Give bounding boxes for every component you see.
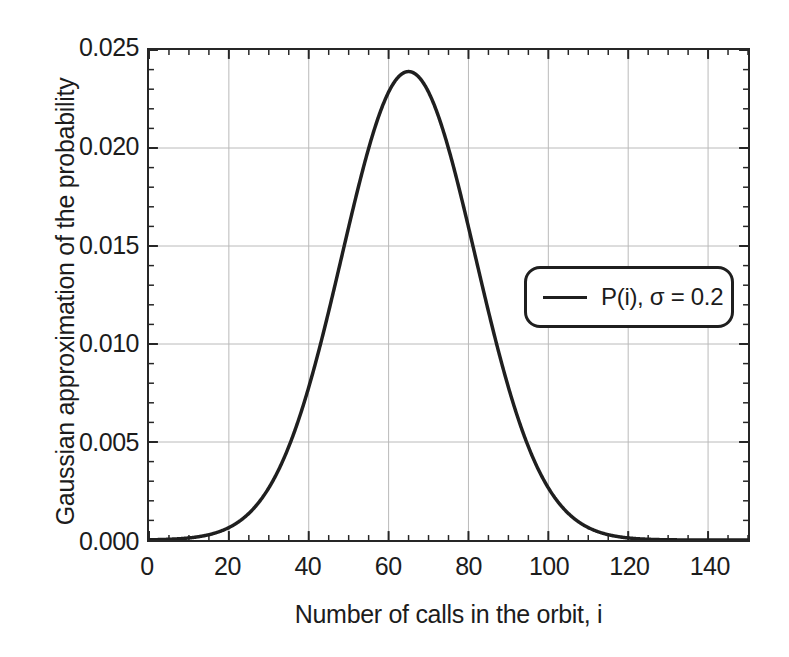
legend-entry-label: P(i), σ = 0.2 [601, 283, 723, 311]
x-tick-label: 60 [375, 554, 402, 579]
x-tick-label: 100 [529, 554, 569, 579]
legend-box: P(i), σ = 0.2 [524, 266, 734, 328]
x-axis-title: Number of calls in the orbit, i [147, 600, 750, 629]
x-tick-label: 80 [455, 554, 482, 579]
x-tick-label: 0 [140, 554, 153, 579]
x-tick-label: 20 [214, 554, 241, 579]
y-axis-title: Gaussian approximation of the probabilit… [51, 22, 80, 582]
x-tick-label: 120 [609, 554, 649, 579]
x-tick-label: 140 [690, 554, 730, 579]
legend-line-swatch [543, 296, 587, 299]
x-tick-label: 40 [294, 554, 321, 579]
figure-canvas: 0.0000.0050.0100.0150.0200.025 020406080… [0, 0, 789, 657]
